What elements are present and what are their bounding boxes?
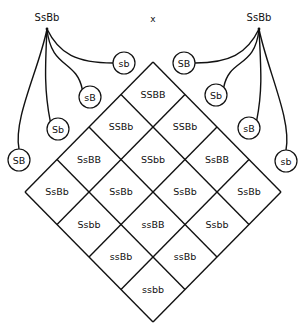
offspring-genotype-cell: SSbb [141, 154, 165, 165]
gamete-label: sb [119, 58, 130, 69]
right-gamete-Sb: Sb [205, 84, 227, 106]
offspring-genotype-cell: SsBb [109, 186, 133, 197]
offspring-genotype-cell: ssBb [174, 251, 196, 262]
gamete-label: SB [13, 155, 26, 166]
offspring-genotype-cell: SSBB [140, 89, 165, 100]
offspring-genotype-cell: SsBB [77, 154, 101, 165]
offspring-genotype-cell: ssBB [142, 219, 165, 230]
gamete-label: Sb [52, 124, 64, 135]
right-gamete-connector [259, 29, 287, 150]
right-parent-genotype: SsBb [247, 12, 272, 23]
offspring-genotype-cell: ssBb [110, 251, 132, 262]
right-gamete-SB: SB [173, 52, 195, 74]
gamete-label: sB [84, 92, 95, 103]
right-gamete-sb: sb [275, 150, 297, 172]
left-parent-junction [46, 28, 49, 31]
offspring-genotype-cell: SSBb [109, 121, 134, 132]
offspring-genotype-cell: SsBB [205, 154, 229, 165]
offspring-genotype-cell: SsBb [45, 186, 69, 197]
left-gamete-sb: sb [113, 52, 135, 74]
right-gamete-connector [257, 29, 261, 120]
gamete-label: sB [243, 123, 254, 134]
left-parent-genotype: SsBb [35, 12, 60, 23]
offspring-genotype-cell: SSBb [173, 121, 198, 132]
gamete-label: Sb [210, 90, 222, 101]
offspring-genotype-cell: Ssbb [77, 219, 100, 230]
offspring-genotype-cell: Ssbb [205, 219, 228, 230]
left-gamete-SB: SB [8, 149, 30, 171]
offspring-genotype-cell: SsBb [237, 186, 261, 197]
left-gamete-connector [47, 29, 113, 63]
right-gamete-connector [195, 29, 259, 63]
cross-symbol: x [150, 14, 156, 24]
left-gamete-sB: sB [79, 86, 101, 108]
right-parent-junction [258, 28, 261, 31]
gamete-label: sb [281, 156, 292, 167]
offspring-genotype-cell: SsBb [173, 186, 197, 197]
left-gamete-connector [18, 29, 47, 149]
offspring-genotype-cell: ssbb [142, 284, 164, 295]
gamete-label: SB [178, 58, 191, 69]
right-gamete-sB: sB [238, 117, 260, 139]
punnett-diagram: SSBBSSBbSsBBSsBbSSBbSSbbSsBbSsbbSsBBSsBb… [0, 0, 306, 328]
left-gamete-Sb: Sb [47, 118, 69, 140]
